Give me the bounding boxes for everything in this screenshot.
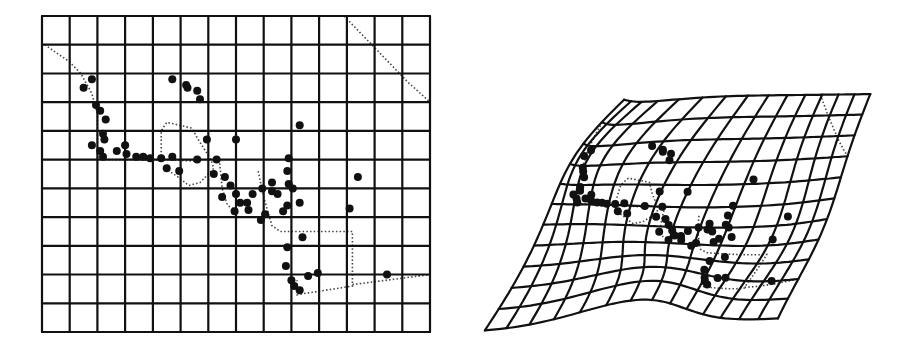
landmark-point [687,242,695,250]
outline-path [344,16,430,102]
landmark-point [282,262,290,270]
landmark-point [245,206,253,214]
landmark-point [784,213,792,221]
landmark-point [88,141,96,149]
landmark-point [80,84,88,92]
landmark-point [121,141,129,149]
deformed-grid-panel [485,94,870,330]
landmark-point [258,184,266,192]
landmark-point [648,142,656,150]
landmark-point [706,257,714,265]
landmark-point [299,233,307,241]
landmark-point [656,187,664,195]
landmark-point [193,156,201,164]
landmark-point [695,224,703,232]
landmark-point [168,75,176,83]
deformed-grid-column-line [758,94,854,319]
landmark-point [196,95,204,103]
landmark-point [274,190,282,198]
landmark-point [175,167,183,175]
landmark-point [139,153,147,161]
landmark-point [296,121,304,129]
landmark-point [218,193,226,201]
landmark-point [684,188,692,196]
reference-grid-panel [42,16,430,332]
landmark-point [296,199,304,207]
landmark-point [703,281,711,289]
landmark-point [268,179,276,187]
landmark-point [304,272,312,280]
deformed-grid-column-line [606,98,702,306]
landmark-point [611,200,619,208]
landmark-point [354,173,362,181]
landmark-point [123,150,131,158]
deformed-grid-row-line [560,177,841,185]
landmark-point [221,173,229,181]
landmark-point [728,233,736,241]
landmark-point [768,277,776,285]
landmark-point [576,187,584,195]
landmark-point [729,202,737,210]
landmark-point [725,224,733,232]
landmark-point [314,269,322,277]
deformed-grid-row-line [485,300,778,331]
landmark-point [684,227,692,235]
landmark-point [714,274,722,282]
landmark-point [659,148,667,156]
landmark-point [580,173,588,181]
landmark-point [88,75,96,83]
landmark-point [168,153,176,161]
landmark-point [96,107,104,115]
landmark-point [573,198,581,206]
landmark-point [700,266,708,274]
landmark-point [232,136,240,144]
landmark-point [283,167,291,175]
landmark-point [655,228,663,236]
deformed-grid-column-line [485,100,624,331]
landmark-point [283,243,291,251]
landmark-point [146,154,154,162]
landmark-point [346,205,354,213]
landmark-point [231,207,239,215]
landmark-point [249,190,257,198]
landmark-point [236,199,244,207]
landmark-point [722,274,730,282]
deformed-grid-lines [485,94,870,330]
landmark-point [710,238,718,246]
landmark-point [289,184,297,192]
deformed-grid-row-line [570,156,848,166]
landmark-point [383,271,391,279]
landmark-point [210,170,218,178]
landmark-point [603,200,611,208]
landmark-point [102,115,110,123]
landmark-point [666,156,674,164]
reference-grid-lines [42,16,430,332]
landmark-point [623,210,631,218]
landmark-point [213,156,221,164]
landmark-point [203,136,211,144]
landmark-point [100,136,108,144]
landmark-point [750,175,758,183]
landmark-point [677,236,685,244]
landmark-point [614,207,622,215]
landmark-point [132,153,140,161]
landmark-point [580,152,588,160]
landmark-point [99,153,107,161]
landmark-point [587,146,595,154]
landmark-point [652,213,660,221]
landmark-point [279,207,287,215]
landmark-point [193,87,201,95]
outline-path [352,275,430,285]
landmark-point [257,216,265,224]
deformation-figure [0,0,904,356]
landmark-point [769,236,777,244]
landmark-point [708,227,716,235]
landmark-point [721,253,729,261]
landmark-point [724,212,732,220]
landmark-point [641,202,649,210]
landmark-point [157,154,165,162]
landmark-point [163,164,171,172]
landmark-point [232,190,240,198]
landmark-point [184,84,192,92]
landmark-point [665,236,673,244]
